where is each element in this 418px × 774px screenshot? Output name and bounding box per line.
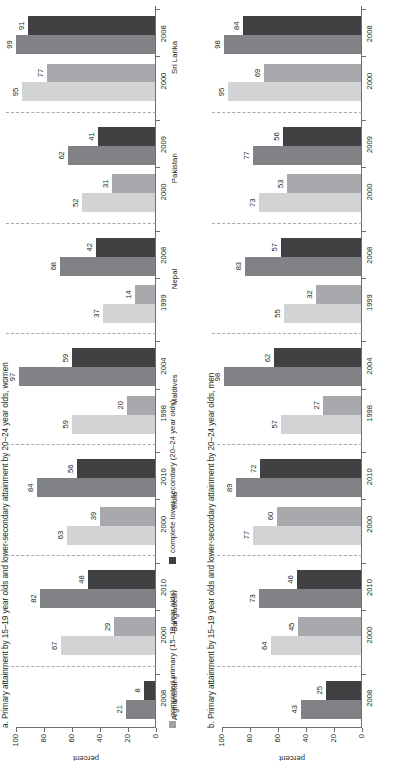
x-year-label: 2000 — [365, 168, 374, 215]
bar-lower-secondary: 29 — [114, 617, 155, 636]
legend-item: complete lower secondary (20–24 year old… — [168, 400, 177, 564]
bar-primary: 99 — [16, 35, 155, 54]
bar-value-label: 8 — [133, 688, 142, 692]
x-year-label: 2008 — [365, 232, 374, 279]
bar-lower-secondary: 42 — [96, 238, 155, 257]
x-year-label: 2000 — [365, 611, 374, 658]
panel-b-plot: percent 020406080100 4325200864452000734… — [222, 6, 362, 728]
x-year-label: 2009 — [159, 121, 168, 168]
bar-value-label: 52 — [71, 199, 80, 207]
bar-primary: 77 — [253, 146, 361, 165]
y-tick-label: 40 — [95, 734, 104, 754]
group-separator — [6, 112, 156, 113]
group-separator — [6, 666, 156, 667]
figure-rotation-wrapper: a. Primary attainment by 15–19 year olds… — [0, 0, 418, 774]
bar-value-label: 84 — [26, 483, 35, 491]
x-year-label: 2010 — [365, 564, 374, 611]
x-year-label: 2008 — [365, 10, 374, 57]
y-tick — [16, 728, 17, 732]
bar-value-label: 97 — [8, 373, 17, 381]
group-separator — [6, 333, 156, 334]
bar-lower-secondary: 91 — [28, 16, 155, 35]
y-tick-label: 20 — [329, 734, 338, 754]
bar-value-label: 32 — [305, 290, 314, 298]
bar-value-label: 63 — [56, 531, 65, 539]
bar-value-label: 42 — [85, 243, 94, 251]
bar-lower-secondary: 32 — [316, 285, 361, 304]
panel-a-axis-title: percent — [73, 754, 99, 763]
bar-lower-secondary: 39 — [100, 507, 155, 526]
x-year-label: 2010 — [159, 453, 168, 500]
bar-value-label: 46 — [286, 575, 295, 583]
bar-lower-secondary: 14 — [135, 285, 155, 304]
bar-lower-secondary: 45 — [298, 617, 361, 636]
panel-b-title: b. Primary attainment by 15–19 year olds… — [206, 373, 216, 728]
bar-value-label: 55 — [273, 309, 282, 317]
x-year-label: 2000 — [159, 611, 168, 658]
y-tick — [100, 728, 101, 732]
bar-primary: 95 — [228, 83, 361, 102]
y-tick — [72, 728, 73, 732]
bar-lower-secondary: 41 — [98, 127, 155, 146]
bar-lower-secondary: 84 — [243, 16, 361, 35]
bar-value-label: 53 — [276, 180, 285, 188]
bar-value-label: 14 — [124, 290, 133, 298]
bar-lower-secondary: 56 — [283, 127, 361, 146]
legend-item: completed primary (15–19 year olds) — [168, 590, 177, 728]
y-tick-label: 80 — [245, 734, 254, 754]
y-tick-label: 100 — [11, 734, 20, 754]
bar-primary: 73 — [259, 193, 361, 212]
bar-primary: 73 — [259, 589, 361, 608]
bar-value-label: 77 — [242, 531, 251, 539]
bar-primary: 98 — [224, 35, 361, 54]
bar-value-label: 25 — [315, 686, 324, 694]
x-year-label: 2010 — [365, 453, 374, 500]
chart-panel-b: b. Primary attainment by 15–19 year olds… — [206, 0, 395, 774]
legend-swatch-icon — [169, 721, 176, 728]
bar-lower-secondary: 59 — [72, 348, 155, 367]
x-country-label: Pakistan — [170, 121, 179, 216]
bar-primary: 97 — [19, 367, 155, 386]
bar-primary: 68 — [60, 257, 155, 276]
bar-lower-secondary: 31 — [112, 174, 155, 193]
bar-value-label: 57 — [270, 420, 279, 428]
x-year-label: 2008 — [159, 10, 168, 57]
y-tick-label: 0 — [151, 734, 160, 754]
bar-primary: 59 — [72, 415, 155, 434]
x-year-label: 2000 — [159, 500, 168, 547]
bar-value-label: 60 — [266, 512, 275, 520]
x-year-label: 2000 — [159, 168, 168, 215]
bar-primary: 83 — [245, 257, 361, 276]
y-tick — [250, 728, 251, 732]
group-separator — [6, 223, 156, 224]
bar-lower-secondary: 60 — [277, 507, 361, 526]
bar-value-label: 43 — [290, 705, 299, 713]
bar-value-label: 62 — [57, 151, 66, 159]
figure: a. Primary attainment by 15–19 year olds… — [0, 0, 418, 774]
panel-a-plot: percent 020406080100 2182008Afghanistanᵃ… — [16, 6, 156, 728]
panel-a-y-axis — [16, 727, 156, 728]
group-separator — [212, 223, 362, 224]
panel-b-y-axis — [222, 727, 362, 728]
y-tick-label: 40 — [301, 734, 310, 754]
x-year-label: 2004 — [159, 342, 168, 389]
bar-value-label: 89 — [225, 483, 234, 491]
y-tick — [44, 728, 45, 732]
bar-value-label: 21 — [115, 705, 124, 713]
bar-lower-secondary: 72 — [260, 459, 361, 478]
bar-primary: 21 — [126, 700, 155, 719]
y-tick-label: 80 — [39, 734, 48, 754]
y-tick — [128, 728, 129, 732]
bar-value-label: 77 — [242, 151, 251, 159]
x-year-label: 1999 — [365, 279, 374, 326]
bar-value-label: 67 — [50, 642, 59, 650]
bar-value-label: 31 — [101, 180, 110, 188]
bar-value-label: 27 — [312, 401, 321, 409]
x-year-label: 2000 — [365, 500, 374, 547]
group-separator — [212, 444, 362, 445]
panel-a-title: a. Primary attainment by 15–19 year olds… — [0, 362, 10, 728]
bar-value-label: 73 — [248, 199, 257, 207]
bar-primary: 77 — [253, 526, 361, 545]
bar-lower-secondary: 46 — [297, 570, 361, 589]
legend-label: complete lower secondary (20–24 year old… — [168, 400, 177, 553]
